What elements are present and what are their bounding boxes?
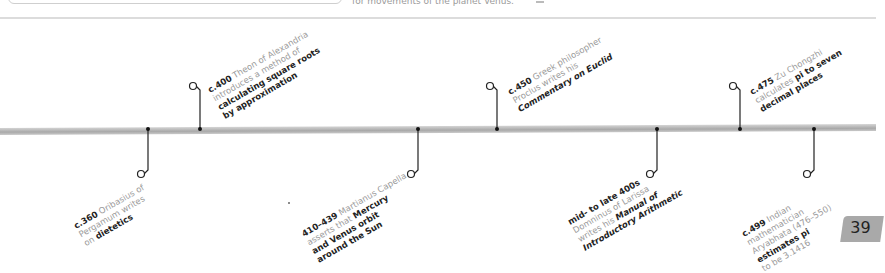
connector-ring [804,171,811,178]
axis-marker [146,127,150,131]
axis-marker [655,127,659,131]
axis-marker [738,127,742,131]
connector-ring [730,83,737,90]
axis-marker [198,127,202,131]
page-number-tab: 39 [840,216,884,242]
connector-line [144,129,148,174]
connector-line [736,86,740,129]
axis-marker [812,127,816,131]
axis-marker [416,127,420,131]
page-number: 39 [842,216,882,237]
connector-line [493,86,497,129]
connector-ring [408,171,415,178]
axis-marker [495,127,499,131]
connector-ring [487,83,494,90]
connector-line [414,129,418,174]
connector-ring [138,171,145,178]
connector-line [196,86,200,129]
connector-ring [190,83,197,90]
connector-line [810,129,814,174]
